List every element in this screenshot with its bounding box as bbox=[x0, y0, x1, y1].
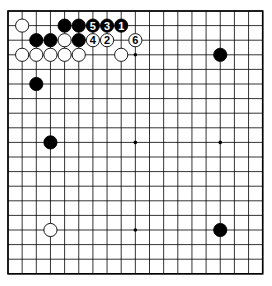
stone-circle bbox=[16, 48, 29, 61]
white-stone bbox=[58, 48, 71, 61]
white-stone bbox=[16, 48, 29, 61]
move-number: 1 bbox=[118, 20, 124, 32]
move-number: 2 bbox=[104, 34, 110, 46]
black-stone bbox=[44, 34, 57, 47]
stone-circle bbox=[30, 34, 43, 47]
stone-circle bbox=[44, 136, 57, 149]
star-point bbox=[134, 228, 138, 232]
stone-circle bbox=[58, 19, 71, 32]
move-number: 4 bbox=[90, 34, 97, 46]
stone-circle bbox=[72, 48, 85, 61]
white-stone bbox=[115, 48, 128, 61]
stone-circle bbox=[30, 48, 43, 61]
white-stone bbox=[58, 34, 71, 47]
stone-circle bbox=[115, 48, 128, 61]
stone-circle bbox=[44, 34, 57, 47]
black-stone-1: 1 bbox=[115, 19, 128, 32]
stone-circle bbox=[44, 48, 57, 61]
black-stone bbox=[58, 19, 71, 32]
black-stone bbox=[72, 19, 85, 32]
white-stone-4: 4 bbox=[86, 34, 99, 47]
move-number: 6 bbox=[132, 34, 138, 46]
white-stone bbox=[16, 19, 29, 32]
go-board: 531426 bbox=[0, 0, 272, 286]
stone-circle bbox=[72, 34, 85, 47]
stone-circle bbox=[214, 48, 227, 61]
star-point bbox=[134, 53, 138, 57]
white-stone-6: 6 bbox=[129, 34, 142, 47]
stone-circle bbox=[72, 19, 85, 32]
black-stone-3: 3 bbox=[100, 19, 113, 32]
white-stone bbox=[72, 48, 85, 61]
white-stone-2: 2 bbox=[100, 34, 113, 47]
black-stone bbox=[44, 136, 57, 149]
stone-circle bbox=[30, 77, 43, 90]
stone-circle bbox=[16, 19, 29, 32]
black-stone-5: 5 bbox=[86, 19, 99, 32]
star-point bbox=[218, 141, 222, 145]
black-stone bbox=[30, 77, 43, 90]
white-stone bbox=[44, 223, 57, 236]
stone-circle bbox=[58, 34, 71, 47]
star-point bbox=[134, 141, 138, 145]
black-stone bbox=[72, 34, 85, 47]
black-stone bbox=[214, 48, 227, 61]
white-stone bbox=[30, 48, 43, 61]
black-stone bbox=[214, 223, 227, 236]
stone-circle bbox=[214, 223, 227, 236]
white-stone bbox=[44, 48, 57, 61]
black-stone bbox=[30, 34, 43, 47]
stone-circle bbox=[58, 48, 71, 61]
move-number: 3 bbox=[104, 20, 110, 32]
stone-circle bbox=[44, 223, 57, 236]
move-number: 5 bbox=[90, 20, 96, 32]
